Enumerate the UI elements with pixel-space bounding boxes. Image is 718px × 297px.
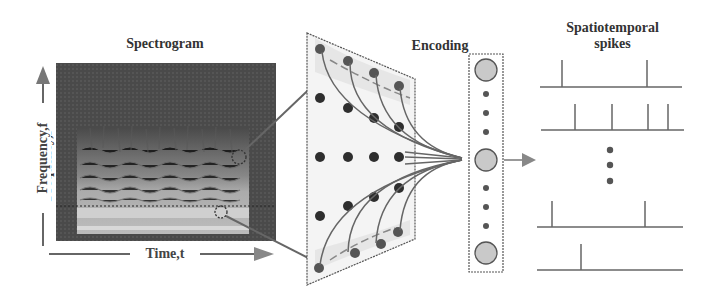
ellipsis-dots [607, 147, 613, 184]
encoding-diagram: Spectrogram Encoding Spatiotemporal spik… [0, 0, 718, 297]
y-axis-label-overlay: Frequency,f [35, 103, 51, 213]
x-axis-label-overlay: Time,t [130, 246, 200, 262]
diagram-graphics [0, 0, 718, 297]
encoding-column [469, 54, 503, 272]
output-arrow [504, 153, 536, 167]
